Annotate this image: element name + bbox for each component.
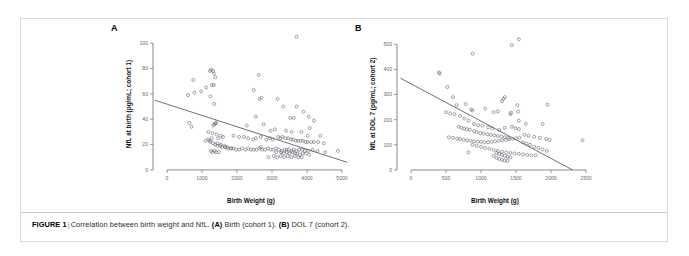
scatter-svg-a: A020406080100010002000300040005000Birth …	[107, 19, 357, 211]
data-point	[503, 159, 506, 162]
data-point	[513, 152, 516, 155]
y-tick-label: 60	[142, 91, 148, 97]
caption-text-a: Birth (cohort 1).	[224, 220, 276, 229]
data-point	[469, 139, 472, 142]
data-point	[307, 115, 310, 118]
x-tick-label: 2500	[580, 175, 591, 181]
data-point	[460, 126, 463, 129]
data-point	[217, 137, 220, 140]
data-point	[501, 100, 504, 103]
data-point	[300, 156, 303, 159]
data-point	[275, 151, 278, 154]
y-axis-title: NfL at DOL 7 (pg/mL; cohort 2)	[369, 58, 377, 151]
data-point	[488, 147, 491, 150]
data-point	[254, 115, 257, 118]
y-tick-label: 400	[384, 66, 393, 72]
data-point	[247, 137, 250, 140]
data-point	[497, 139, 500, 142]
panel-letter-a: A	[111, 23, 118, 33]
data-point	[476, 140, 479, 143]
figure-frame: A020406080100010002000300040005000Birth …	[20, 18, 668, 242]
data-point	[306, 141, 309, 144]
data-point	[257, 73, 260, 76]
data-point	[480, 145, 483, 148]
data-point	[534, 154, 537, 157]
data-point	[279, 154, 282, 157]
data-point	[267, 156, 270, 159]
x-tick-label: 2000	[545, 175, 556, 181]
data-point	[541, 122, 544, 125]
data-point	[517, 128, 520, 131]
x-tick-label: 1000	[475, 175, 486, 181]
data-point	[289, 116, 292, 119]
y-tick-label: 100	[384, 142, 393, 148]
x-tick-label: 0	[166, 175, 169, 181]
data-point	[516, 104, 519, 107]
data-point	[456, 137, 459, 140]
data-point	[581, 139, 584, 142]
data-point	[214, 76, 217, 79]
data-point	[245, 124, 248, 127]
scatter-svg-b: B010020030040050005001000150020002500Bir…	[351, 19, 601, 211]
x-tick-label: 1500	[510, 175, 521, 181]
data-point	[290, 156, 293, 159]
data-point	[207, 130, 210, 133]
data-point	[526, 153, 529, 156]
data-point	[533, 135, 536, 138]
data-point	[484, 107, 487, 110]
y-tick-label: 0	[145, 167, 148, 173]
data-point	[471, 52, 474, 55]
x-tick-label: 3000	[266, 175, 277, 181]
data-point	[295, 105, 298, 108]
data-point	[524, 122, 527, 125]
data-point	[510, 125, 513, 128]
data-point	[473, 140, 476, 143]
data-point	[545, 137, 548, 140]
y-tick-label: 0	[389, 167, 392, 173]
data-point	[501, 139, 504, 142]
data-point	[503, 126, 506, 129]
data-point	[269, 129, 272, 132]
data-point	[276, 97, 279, 100]
scatter-panel-b: B010020030040050005001000150020002500Bir…	[351, 19, 601, 211]
data-point	[462, 138, 465, 141]
data-point	[489, 133, 492, 136]
data-point	[490, 140, 493, 143]
data-point	[467, 119, 470, 122]
data-point	[529, 143, 532, 146]
data-point	[541, 148, 544, 151]
data-point	[192, 78, 195, 81]
regression-line	[155, 100, 348, 162]
data-point	[240, 147, 243, 150]
data-point	[517, 110, 520, 113]
data-point	[463, 117, 466, 120]
data-points	[187, 35, 340, 158]
data-point	[500, 135, 503, 138]
data-point	[509, 151, 512, 154]
data-point	[482, 132, 485, 135]
data-point	[501, 150, 504, 153]
data-point	[494, 140, 497, 143]
data-point	[215, 133, 218, 136]
data-point	[459, 138, 462, 141]
data-point	[319, 134, 322, 137]
data-point	[446, 86, 449, 89]
data-point	[276, 156, 279, 159]
data-point	[522, 153, 525, 156]
data-points	[438, 38, 585, 163]
y-axis-title: NfL at birth (pg/mL; cohort 1)	[125, 60, 133, 148]
data-point	[449, 112, 452, 115]
data-point	[496, 135, 499, 138]
data-point	[475, 144, 478, 147]
data-point	[453, 113, 456, 116]
data-point	[190, 125, 193, 128]
data-point	[452, 136, 455, 139]
data-point	[262, 123, 265, 126]
data-point	[308, 153, 311, 156]
data-point	[545, 149, 548, 152]
data-point	[466, 128, 469, 131]
data-point	[455, 104, 458, 107]
data-point	[308, 127, 311, 130]
data-point	[505, 151, 508, 154]
data-point	[316, 149, 319, 152]
